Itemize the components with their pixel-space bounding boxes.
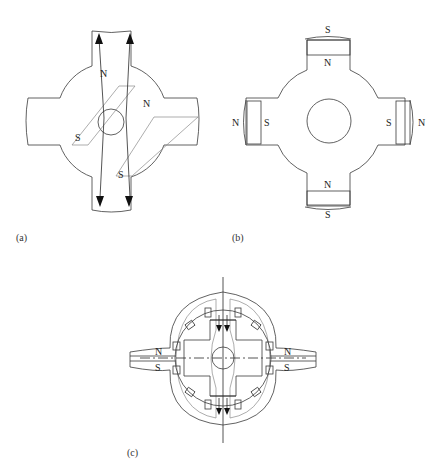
panel-a-label-s-upper: S xyxy=(75,132,81,143)
panel-b-label-bottom-outer: S xyxy=(325,209,331,220)
panel-c-slot xyxy=(185,320,195,330)
panel-a-stator-outline xyxy=(26,31,199,212)
panel-a-arrow-up-left xyxy=(95,33,103,44)
panel-b-label-top-inner: N xyxy=(324,57,331,68)
panel-a-caption: (a) xyxy=(16,232,27,244)
panel-c-arrow-bottom-left xyxy=(216,408,222,415)
panel-b-label-bottom-inner: N xyxy=(324,179,331,190)
panel-a-arrow-down-right xyxy=(125,196,133,207)
panel-c-arrow-top-right xyxy=(224,325,230,332)
panel-c-arrow-top-left xyxy=(216,325,222,332)
panel-c-arrow-bottom-right xyxy=(224,408,230,415)
panel-b-label-right-inner: S xyxy=(386,117,392,128)
panel-a-flux-line-left xyxy=(99,38,104,198)
panel-c-label-right-s: S xyxy=(284,362,290,373)
panel-b-label-top-outer: S xyxy=(325,24,331,35)
panel-a-shaft xyxy=(98,109,124,135)
panel-a-label-n-right: N xyxy=(143,98,150,109)
panel-a-arrow-up-right xyxy=(126,33,134,44)
panel-b-magnet-bottom xyxy=(307,191,350,206)
panel-c-caption: (c) xyxy=(127,447,138,459)
panel-c-label-right-n: N xyxy=(284,346,291,357)
panel-b-label-left-outer: N xyxy=(232,117,239,128)
panel-a-flux-line-right xyxy=(126,38,130,198)
panel-b-label-left-inner: S xyxy=(264,117,270,128)
panel-c-label-left-n: N xyxy=(155,346,162,357)
panel-c-label-left-s: S xyxy=(155,362,161,373)
panel-b-shaft xyxy=(307,99,351,143)
panel-b-magnet-right xyxy=(396,101,410,144)
panel-a-arrow-down-left xyxy=(96,196,104,207)
panel-c-diagram: N S N S xyxy=(130,277,316,443)
panel-a-diagram: N N S S xyxy=(26,31,199,212)
panel-b-label-right-outer: N xyxy=(418,117,425,128)
panel-b-magnet-right-arc xyxy=(410,100,413,145)
panel-a-label-s-lower: S xyxy=(118,169,124,180)
panel-b-magnet-left xyxy=(247,101,261,144)
panel-b-magnet-top-arc xyxy=(305,37,351,40)
panel-a-label-n-upper: N xyxy=(100,68,107,79)
figure-canvas: N N S S (a) S N N S S N N S (b) xyxy=(0,0,448,473)
panel-b-magnet-top xyxy=(307,40,350,55)
panel-b-diagram: S N N S S N N S xyxy=(232,24,425,220)
panel-c-slot xyxy=(251,320,261,330)
panel-b-caption: (b) xyxy=(232,232,244,244)
